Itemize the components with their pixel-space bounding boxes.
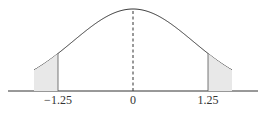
tick-label-neg-1-25: −1.25 bbox=[44, 93, 72, 107]
tick-label-1-25: 1.25 bbox=[198, 93, 219, 107]
left-tail-shading bbox=[34, 53, 58, 91]
right-tail-shading bbox=[208, 53, 232, 91]
tick-label-zero: 0 bbox=[130, 93, 136, 107]
normal-curve-chart: −1.25 0 1.25 bbox=[0, 0, 262, 113]
